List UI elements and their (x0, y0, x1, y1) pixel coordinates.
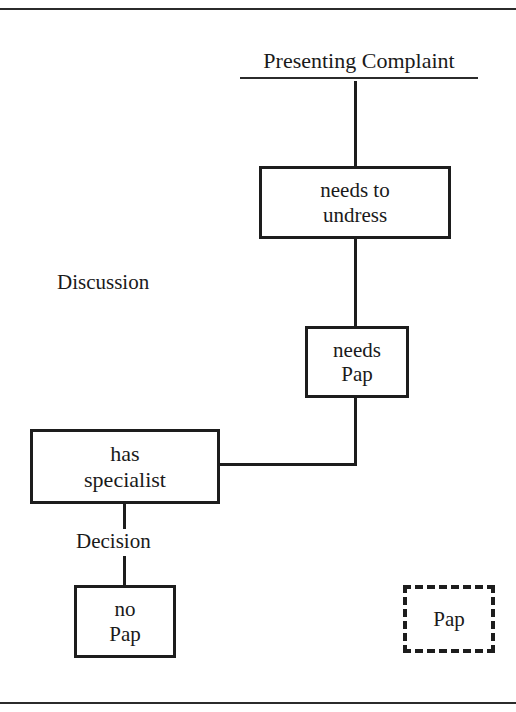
node-pap-label: Pap (433, 607, 465, 631)
node-has-specialist: has specialist (30, 429, 220, 504)
connector-needs-pap-down (354, 395, 357, 466)
node-needs-pap: needs Pap (305, 326, 409, 398)
flow-diagram-figure: Presenting Complaint needs to undress ne… (0, 0, 516, 712)
diagram-heading: Presenting Complaint (240, 48, 478, 79)
figure-bottom-rule (0, 702, 516, 704)
section-label-decision: Decision (70, 529, 157, 554)
node-needs-to-undress-label: needs to undress (320, 178, 389, 227)
node-needs-pap-label: needs Pap (333, 338, 381, 387)
figure-top-rule (0, 8, 516, 10)
node-no-pap: no Pap (74, 585, 176, 658)
connector-undress-to-needs-pap (354, 236, 357, 329)
section-label-discussion: Discussion (57, 270, 149, 295)
connector-heading-to-undress (354, 81, 357, 169)
node-pap-dashed: Pap (403, 585, 495, 653)
node-needs-to-undress: needs to undress (259, 166, 451, 239)
node-has-specialist-label: has specialist (84, 441, 166, 492)
connector-needs-pap-to-has-specialist (218, 463, 357, 466)
connector-decision-to-no-pap (123, 556, 126, 588)
node-no-pap-label: no Pap (109, 597, 141, 646)
